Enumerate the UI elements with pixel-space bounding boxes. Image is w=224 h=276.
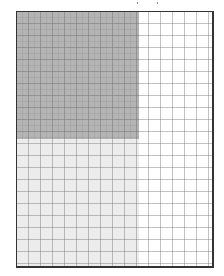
dark-shaded-region: [17, 12, 139, 139]
top-edge-marks: [0, 0, 224, 10]
light-shaded-region: [17, 139, 139, 267]
tick-mark: [137, 2, 138, 4]
grid-frame: [16, 11, 214, 268]
fine-dotted-grid: [17, 12, 139, 139]
unshaded-region: [139, 12, 213, 267]
tick-mark: [157, 2, 158, 4]
